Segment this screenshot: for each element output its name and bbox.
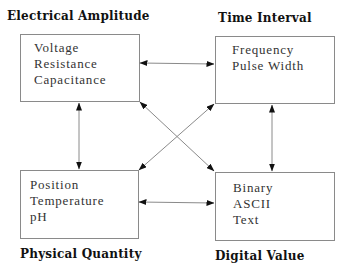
connector-arrows xyxy=(0,0,342,273)
arrow-electrical-time xyxy=(140,63,214,64)
arrow-physical-digital xyxy=(139,202,214,203)
